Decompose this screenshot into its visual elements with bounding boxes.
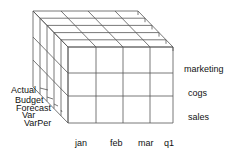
- column-label-mar: mar: [138, 138, 154, 148]
- layer-label-actual: Actual: [11, 85, 36, 95]
- cube-edge: [33, 60, 68, 96]
- cube-edge: [33, 37, 68, 73]
- olap-cube-diagram: [0, 0, 229, 154]
- layer-label-varper: VarPer: [24, 118, 51, 128]
- cube-edge: [115, 11, 150, 47]
- row-label-cogs: cogs: [188, 88, 207, 98]
- row-label-marketing: marketing: [184, 64, 224, 74]
- cube-edge: [138, 11, 173, 47]
- cube-edge: [88, 11, 123, 47]
- cube-edge: [33, 11, 68, 47]
- column-label-q1: q1: [164, 138, 174, 148]
- cube-edge: [47, 97, 53, 99]
- column-label-jan: jan: [75, 138, 87, 148]
- row-label-sales: sales: [188, 112, 209, 122]
- cube-edge: [61, 11, 96, 47]
- cube-edge: [54, 104, 58, 106]
- column-label-feb: feb: [110, 138, 123, 148]
